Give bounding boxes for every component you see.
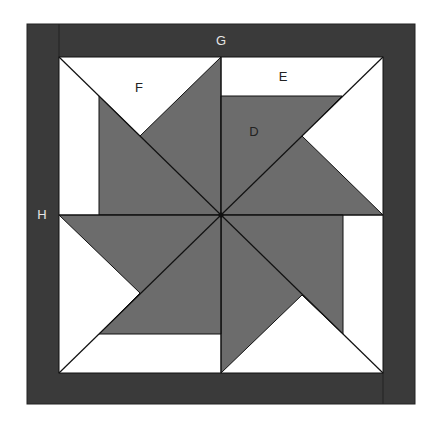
label-h: H	[37, 207, 46, 222]
quilt-block-diagram: G H F E D	[0, 0, 430, 422]
label-d: D	[249, 124, 258, 139]
center-point	[219, 213, 224, 218]
label-f: F	[135, 80, 143, 95]
label-g: G	[216, 33, 226, 48]
label-e: E	[279, 69, 288, 84]
